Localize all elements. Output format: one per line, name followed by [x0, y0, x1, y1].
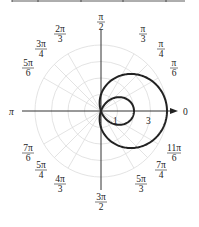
svg-text:π: π — [172, 58, 177, 68]
svg-text:6: 6 — [26, 153, 31, 163]
svg-text:5π: 5π — [136, 174, 146, 184]
svg-text:2π: 2π — [55, 24, 65, 34]
angle-label-0: 0 — [183, 107, 188, 117]
angle-label-pi-2: π 2 — [97, 12, 105, 32]
top-table-border — [12, 0, 185, 2]
svg-text:11π: 11π — [167, 143, 181, 153]
angle-label-3pi-2: 3π 2 — [95, 192, 107, 212]
svg-text:4π: 4π — [55, 174, 65, 184]
angle-label-pi: π — [9, 107, 14, 117]
angle-label-pi-6: π 6 — [170, 58, 178, 78]
svg-text:4: 4 — [159, 170, 164, 180]
svg-text:π: π — [99, 12, 104, 22]
svg-text:5π: 5π — [36, 160, 46, 170]
angle-label-3pi-4: 3π 4 — [35, 39, 47, 59]
arrow-icon — [170, 108, 178, 114]
angle-label-7pi-6: 7π 6 — [22, 143, 34, 163]
angle-label-5pi-3: 5π 3 — [135, 174, 147, 194]
svg-text:6: 6 — [172, 68, 177, 78]
angle-label-pi-3: π 3 — [139, 24, 147, 44]
angle-label-5pi-4: 5π 4 — [35, 160, 47, 180]
svg-text:7π: 7π — [23, 143, 33, 153]
svg-text:3: 3 — [58, 34, 63, 44]
svg-text:π: π — [159, 39, 164, 49]
svg-text:4: 4 — [39, 49, 44, 59]
svg-text:3: 3 — [58, 184, 63, 194]
polar-chart: 1 3 0 π π 2 π 3 π 4 π 6 2π 3 3π 4 5π 6 7… — [0, 0, 199, 227]
svg-text:4: 4 — [159, 49, 164, 59]
radial-label-1: 1 — [113, 116, 118, 126]
angle-label-7pi-4: 7π 4 — [155, 160, 167, 180]
svg-text:π: π — [141, 24, 146, 34]
svg-text:3π: 3π — [96, 192, 106, 202]
radial-label-3: 3 — [146, 116, 151, 126]
svg-text:6: 6 — [172, 153, 177, 163]
svg-text:2: 2 — [99, 22, 104, 32]
angle-label-5pi-6: 5π 6 — [22, 58, 34, 78]
svg-text:7π: 7π — [156, 160, 166, 170]
svg-text:2: 2 — [99, 202, 104, 212]
svg-text:3π: 3π — [36, 39, 46, 49]
angle-label-11pi-6: 11π 6 — [167, 143, 181, 163]
svg-text:3: 3 — [139, 184, 144, 194]
angle-label-2pi-3: 2π 3 — [54, 24, 66, 44]
svg-text:4: 4 — [39, 170, 44, 180]
angle-label-pi-4: π 4 — [157, 39, 165, 59]
angle-label-4pi-3: 4π 3 — [54, 174, 66, 194]
svg-text:3: 3 — [141, 34, 146, 44]
svg-text:6: 6 — [26, 68, 31, 78]
svg-text:5π: 5π — [23, 58, 33, 68]
